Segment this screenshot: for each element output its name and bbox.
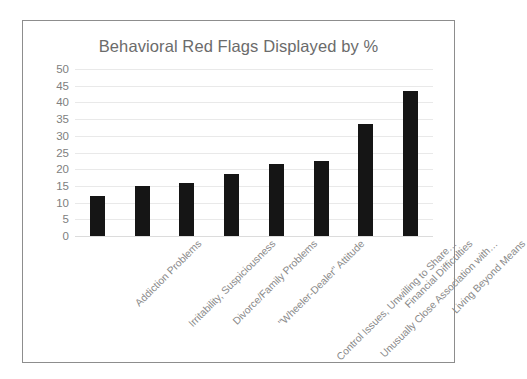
gridline <box>75 86 433 87</box>
gridline <box>75 69 433 70</box>
x-axis-category-label: Divorce/Family Problems <box>230 238 319 327</box>
gridline <box>75 186 433 187</box>
gridline <box>75 203 433 204</box>
y-axis-tick-label: 40 <box>45 96 69 108</box>
chart-title: Behavioral Red Flags Displayed by % <box>23 37 454 56</box>
gridline <box>75 236 433 237</box>
y-axis-tick-label: 15 <box>45 180 69 192</box>
bar[interactable] <box>90 196 105 236</box>
gridline <box>75 136 433 137</box>
y-axis-tick-label: 10 <box>45 197 69 209</box>
gridline <box>75 169 433 170</box>
bar[interactable] <box>314 161 329 236</box>
bar[interactable] <box>179 183 194 236</box>
y-axis-tick-label: 25 <box>45 147 69 159</box>
y-axis-tick-label: 50 <box>45 63 69 75</box>
bar[interactable] <box>403 91 418 236</box>
y-axis-tick-label: 30 <box>45 130 69 142</box>
gridline <box>75 219 433 220</box>
y-axis-tick-label: 5 <box>45 213 69 225</box>
chart-frame: Behavioral Red Flags Displayed by % 0510… <box>22 20 455 363</box>
plot-area: 05101520253035404550 <box>75 69 433 236</box>
x-axis-labels: Addiction ProblemsIrritability, Suspicio… <box>75 238 433 368</box>
gridline <box>75 119 433 120</box>
y-axis-tick-label: 45 <box>45 80 69 92</box>
gridline <box>75 153 433 154</box>
gridline <box>75 102 433 103</box>
bar[interactable] <box>224 174 239 236</box>
x-axis-category-label: "Wheeler-Dealer" Attitude <box>276 238 366 328</box>
y-axis-tick-label: 0 <box>45 230 69 242</box>
bar[interactable] <box>358 124 373 236</box>
y-axis-tick-label: 35 <box>45 113 69 125</box>
y-axis-tick-label: 20 <box>45 163 69 175</box>
bar[interactable] <box>269 164 284 236</box>
x-axis-category-label: Addiction Problems <box>133 238 204 309</box>
bar[interactable] <box>135 186 150 236</box>
